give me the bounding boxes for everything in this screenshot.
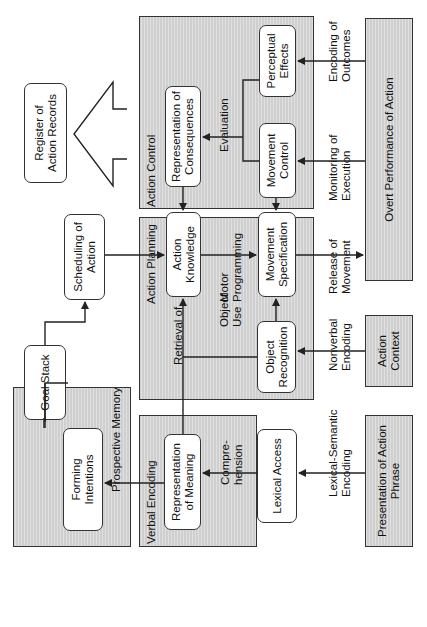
node-movement-specification: Movement Specification (258, 212, 296, 297)
node-action-context: Action Context (365, 315, 413, 387)
node-object-recognition: Object Recognition (257, 321, 296, 393)
node-presentation-of-action-phrase: Presentation of Action Phrase (365, 415, 413, 547)
region-label-action-control: Action Control (145, 135, 157, 207)
edge-label-evaluation: Evaluation (218, 98, 231, 152)
presentation-of-action-phrase-label: Presentation of Action Phrase (376, 425, 402, 537)
region-label-action-planning: Action Planning (145, 224, 157, 304)
node-representation-of-consequences: Representation of Consequences (165, 86, 201, 187)
node-action-knowledge: Action Knowledge (166, 212, 201, 297)
node-perceptual-effects: Perceptual Effects (259, 25, 296, 97)
node-scheduling-of-action: Scheduling of Action (64, 214, 105, 300)
edge-label-comprehension: Compre- hension (219, 440, 245, 485)
node-overt-performance-of-action: Overt Performance of Action (365, 18, 413, 281)
edge-label-encoding-of-outcomes: Encoding of Outcomes (327, 21, 353, 82)
action-context-label: Action Context (376, 331, 402, 371)
edge-label-release-of-movement: Release of Movement (327, 239, 353, 294)
node-movement-control: Movement Control (259, 123, 296, 198)
edge-label-monitoring-of-execution: Monitoring of Execution (327, 135, 353, 201)
node-goal-stack: Goal Stack (24, 345, 66, 420)
node-representation-of-meaning: Representation of Meaning (164, 434, 201, 530)
region-label-prospective-memory: Prospective Memory (110, 387, 122, 492)
edge-label-nonverbal-encoding: Nonverbal Encoding (327, 319, 353, 371)
node-forming-intentions: Forming Intentions (63, 428, 103, 531)
region-label-verbal-encoding: Verbal Encoding (145, 460, 157, 544)
node-lexical-access: Lexical Access (257, 429, 297, 523)
overt-performance-of-action-label: Overt Performance of Action (383, 77, 395, 221)
edge-label-motor-programming: Motor Programming (218, 233, 244, 302)
node-register-of-action-records: Register of Action Records (24, 83, 67, 183)
edge-label-lexical-semantic-encoding: Lexical-Semantic Encoding (327, 409, 353, 497)
big-arrow-icon (74, 82, 127, 186)
edge-label-retrieval-of: Retrieval of (172, 307, 185, 365)
diagram-canvas: Prospective Memory Verbal Encoding Actio… (0, 0, 427, 627)
